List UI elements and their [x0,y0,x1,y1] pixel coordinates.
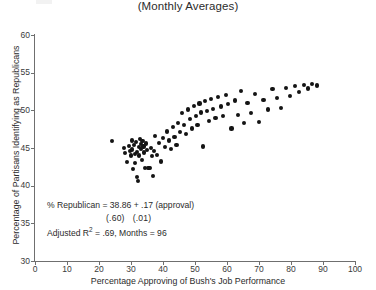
scatter-point [213,116,217,120]
scatter-point [188,117,192,121]
x-tick-mark [35,262,36,265]
scatter-point [159,159,163,163]
x-tick-label: 0 [22,265,48,274]
scatter-point [174,143,178,147]
scatter-point [157,141,161,145]
scatter-point [153,134,157,138]
scatter-point [315,83,319,87]
adjusted-r2-rest: = .69, Months = 96 [93,228,167,238]
scatter-point [123,151,127,155]
scatter-point [137,153,141,157]
y-axis-title: Percentage of Partisans Identifying as R… [11,25,21,265]
scatter-point [306,86,310,90]
scatter-point [125,160,129,164]
scatter-point [155,153,159,157]
scatter-point [190,126,194,130]
scatter-point [182,123,186,127]
x-tick-label: 40 [150,265,176,274]
x-tick-mark [291,262,292,265]
scatter-point [180,111,184,115]
y-tick-mark [31,186,34,187]
scatter-point [229,126,233,130]
scatter-point [216,95,220,99]
scatter-point [275,96,279,100]
scatter-point [172,135,176,139]
regression-annotation: % Republican = 38.86 + .17 (approval) (.… [47,199,194,240]
se-intercept: (.60) [106,213,125,223]
x-tick-label: 20 [86,265,112,274]
se-slope: (.01) [133,213,152,223]
scatter-point [266,107,270,111]
scatter-point [293,84,297,88]
scatter-point [226,102,230,106]
scatter-point [176,121,180,125]
scatter-point [224,93,228,97]
scatter-point [131,167,135,171]
regression-equation: % Republican = 38.86 + .17 (approval) [47,199,194,212]
x-axis-title: Percentage Approving of Bush's Job Perfo… [0,276,376,286]
scatter-point [201,144,205,148]
scatter-point [233,98,237,102]
x-tick-label: 70 [246,265,272,274]
y-tick-mark [31,148,34,149]
scatter-point [279,106,283,110]
y-tick-mark [31,35,34,36]
x-tick-label: 50 [182,265,208,274]
scatter-point [186,107,190,111]
y-tick-mark [31,73,34,74]
scatter-point [192,104,196,108]
scatter-point [144,141,148,145]
scatter-point [207,119,211,123]
x-tick-label: 80 [278,265,304,274]
scatter-point [167,138,171,142]
y-tick-mark [31,110,34,111]
scatter-point [236,113,240,117]
scatter-point [151,174,155,178]
scatter-point [171,125,175,129]
scatter-point [199,110,203,114]
scatter-point [148,166,152,170]
scatter-point [221,114,225,118]
scatter-point [209,97,213,101]
x-tick-mark [163,262,164,265]
scatter-point [270,87,274,91]
x-tick-label: 30 [118,265,144,274]
scatter-point [136,179,140,183]
scatter-point [110,139,114,143]
y-tick-mark [31,223,34,224]
scatter-point [249,111,253,115]
chart-figure: (Monthly Averages) 30354045505560 010203… [0,0,376,290]
scatter-point [134,140,138,144]
scatter-point [122,146,126,150]
y-tick-mark [31,261,34,262]
x-tick-mark [131,262,132,265]
scatter-point [161,136,165,140]
scatter-point [197,101,201,105]
scatter-point [297,90,301,94]
scatter-point [130,147,134,151]
scatter-point [284,86,288,90]
x-tick-mark [99,262,100,265]
scatter-point [219,104,223,108]
scatter-point [145,148,149,152]
scatter-point [203,99,207,103]
x-tick-mark [67,262,68,265]
x-tick-mark [227,262,228,265]
scatter-point [178,130,182,134]
x-tick-label: 10 [54,265,80,274]
scatter-point [163,145,167,149]
standard-errors: (.60)(.01) [47,212,194,225]
x-tick-mark [355,262,356,265]
scatter-point [253,92,257,96]
scatter-point [245,101,249,105]
chart-title: (Monthly Averages) [0,0,376,12]
scatter-point [261,98,265,102]
x-tick-mark [323,262,324,265]
scatter-point [257,120,261,124]
x-tick-mark [259,262,260,265]
scatter-point [169,147,173,151]
scatter-point [133,161,137,165]
scatter-point [242,121,246,125]
scatter-point [165,129,169,133]
scatter-point [184,132,188,136]
